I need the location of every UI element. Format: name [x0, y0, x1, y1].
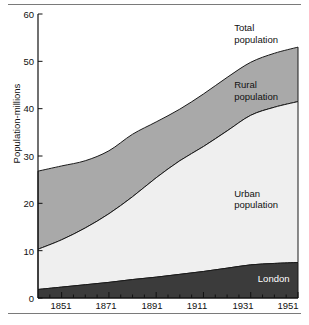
y-tick-labels: 60 50 40 30 20 10 0	[8, 0, 34, 325]
x-tick-1951: 1951	[268, 300, 308, 311]
y-tick-40: 40	[12, 103, 34, 114]
y-tick-60: 60	[12, 9, 34, 20]
x-tick-1851: 1851	[41, 300, 81, 311]
annotation-urban-population: Urban population	[234, 188, 278, 211]
y-tick-10: 10	[12, 246, 34, 257]
annotation-rural-population: Rural population	[234, 79, 278, 102]
x-tick-1911: 1911	[177, 300, 217, 311]
y-tick-0: 0	[12, 293, 34, 304]
x-tick-1891: 1891	[132, 300, 172, 311]
y-tick-30: 30	[12, 151, 34, 162]
x-tick-1871: 1871	[86, 300, 126, 311]
figure-container: Population-millions 60 50 40 30 20 10 0 …	[0, 0, 309, 325]
x-tick-1931: 1931	[223, 300, 263, 311]
y-tick-20: 20	[12, 198, 34, 209]
y-tick-50: 50	[12, 56, 34, 67]
annotation-total-population: Total population	[234, 22, 278, 45]
annotation-london: London	[258, 273, 290, 285]
